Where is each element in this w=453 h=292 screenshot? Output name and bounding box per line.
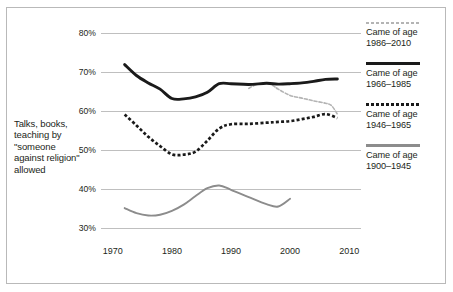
x-axis-tick-label: 2000 [280,246,300,256]
y-axis-description: Talks, books, teaching by "someone again… [14,118,86,175]
x-axis-tick-label: 1990 [221,246,241,256]
chart-figure: Talks, books, teaching by "someone again… [0,0,453,292]
legend-label-line-2: 1966–1985 [366,79,444,90]
legend-entry-label: Came of age1986–2010 [366,27,444,49]
legend: Came of age1986–2010Came of age1966–1985… [366,20,444,185]
dotted-black-line-icon [366,103,420,106]
x-axis-tick-label: 2010 [339,246,359,256]
x-axis-tick-label: 1980 [162,246,182,256]
data-series-layer [101,33,361,228]
legend-label-line-1: Came of age [366,150,444,161]
legend-label-line-2: 1986–2010 [366,38,444,49]
legend-entry[interactable]: Came of age1966–1985 [366,62,444,90]
data-series-line [125,185,290,215]
legend-label-line-1: Came of age [366,27,444,38]
legend-entry-label: Came of age1946–1965 [366,109,444,131]
y-axis-tick-label: 60% [79,106,96,116]
legend-entry[interactable]: Came of age1900–1945 [366,144,444,171]
legend-entry[interactable]: Came of age1946–1965 [366,103,444,131]
y-axis-tick-label: 70% [79,67,96,77]
legend-entry-label: Came of age1966–1985 [366,68,444,90]
x-axis-tick-label: 1970 [103,246,123,256]
y-axis-tick-label: 50% [79,145,96,155]
legend-label-line-2: 1946–1965 [366,120,444,131]
y-axis-tick-label: 40% [79,184,96,194]
legend-label-line-1: Came of age [366,68,444,79]
gridline [101,228,361,229]
solid-gray-line-icon [366,144,420,146]
data-series-line [125,114,338,155]
legend-label-line-1: Came of age [366,109,444,120]
y-axis-tick-label: 30% [79,223,96,233]
data-series-line [249,83,338,114]
solid-black-line-icon [366,62,420,65]
data-series-line [125,65,338,100]
dashed-light-line-icon [366,22,420,24]
plot-area: 30%40%50%60%70%80% 19701980199020002010 [101,33,361,228]
legend-entry-label: Came of age1900–1945 [366,150,444,172]
legend-label-line-2: 1900–1945 [366,161,444,172]
legend-entry[interactable]: Came of age1986–2010 [366,22,444,49]
y-axis-tick-label: 80% [79,28,96,38]
